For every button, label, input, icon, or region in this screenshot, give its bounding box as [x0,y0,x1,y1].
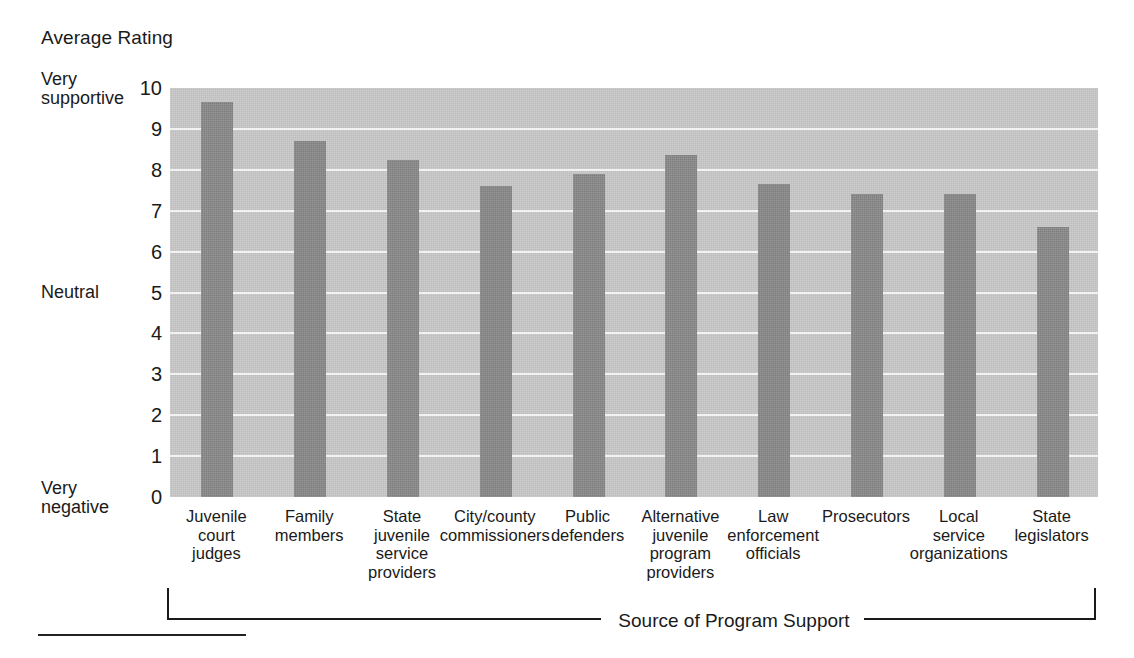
footnote-rule [38,634,246,636]
bar [573,174,605,497]
y-anchor-5: Neutral [41,283,99,302]
y-anchor-10: Very supportive [41,70,124,109]
y-tick-3: 3 [136,364,162,384]
bracket-line-left [167,618,601,620]
bar [758,184,790,497]
bar [480,186,512,497]
x-category-label: State legislators [986,507,1118,544]
bracket-left-tick [167,588,169,618]
y-tick-5: 5 [136,283,162,303]
bar [201,102,233,497]
x-axis-title: Source of Program Support [603,610,865,632]
y-tick-2: 2 [136,405,162,425]
y-tick-0: 0 [136,487,162,507]
x-axis-bracket: Source of Program Support [167,588,1096,620]
y-tick-8: 8 [136,160,162,180]
bar [294,141,326,497]
chart-axis-title: Average Rating [41,27,173,49]
bracket-right-tick [1094,588,1096,618]
y-anchor-0: Very negative [41,479,109,518]
bar [944,194,976,497]
bar [1037,227,1069,497]
y-tick-9: 9 [136,119,162,139]
gridline-9 [170,128,1098,130]
y-tick-7: 7 [136,201,162,221]
y-tick-4: 4 [136,323,162,343]
bar [387,160,419,497]
bar [851,194,883,497]
y-tick-10: 10 [136,78,162,98]
bar [665,155,697,497]
bracket-line-right [864,618,1096,620]
y-tick-6: 6 [136,242,162,262]
y-tick-1: 1 [136,446,162,466]
plot-area [170,88,1098,497]
